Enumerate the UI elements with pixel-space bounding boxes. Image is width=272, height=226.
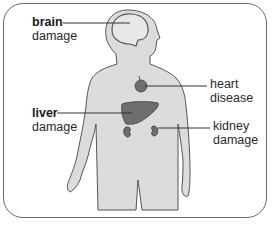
label-brain-sub: damage xyxy=(32,29,77,43)
label-kidney-damage: kidney damage xyxy=(213,119,258,147)
label-kidney: kidney xyxy=(213,119,249,133)
label-brain-damage: brain damage xyxy=(32,15,77,43)
kidney-right-organ xyxy=(152,126,158,136)
kidney-left-organ xyxy=(124,127,131,137)
label-kidney-sub: damage xyxy=(213,133,258,147)
label-liver: liver xyxy=(32,106,58,120)
label-liver-damage: liver damage xyxy=(32,106,77,134)
label-heart-sub: disease xyxy=(210,91,253,105)
label-brain: brain xyxy=(32,15,63,29)
label-heart: heart xyxy=(210,77,239,91)
label-liver-sub: damage xyxy=(32,120,77,134)
label-heart-disease: heart disease xyxy=(210,77,253,105)
